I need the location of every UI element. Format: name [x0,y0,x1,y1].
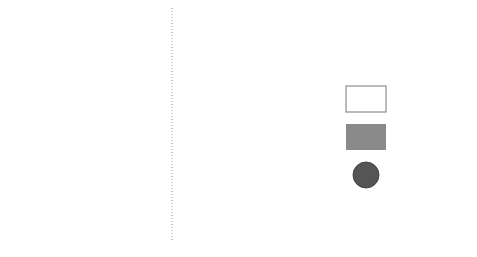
diagram-canvas [0,0,477,257]
legend-node-icon [353,162,379,188]
legend [346,86,386,188]
legend-idle-swatch [346,86,386,112]
legend-busy-swatch [346,124,386,150]
